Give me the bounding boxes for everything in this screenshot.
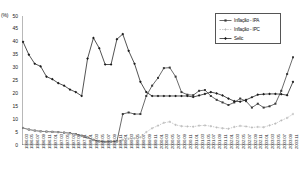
x-axis-tick: 2000.09 xyxy=(183,134,187,149)
series-point-infla-o-ipa xyxy=(198,90,200,92)
series-point-infla-o-ipa xyxy=(227,104,229,106)
series-point-infla-o-ipa xyxy=(180,91,182,93)
x-axis-tick: 2003.03 xyxy=(271,134,275,149)
x-axis-tick: 2000.07 xyxy=(177,134,181,149)
x-axis-tick: 1998.07 xyxy=(107,134,111,149)
x-axis-tick: 1996.09 xyxy=(42,134,46,149)
y-axis-tick: 35 xyxy=(2,52,18,57)
series-point-selic xyxy=(133,62,136,65)
x-axis-tick: 2002.07 xyxy=(248,134,252,149)
series-point-selic xyxy=(215,92,218,95)
series-point-infla-o-ipa xyxy=(204,89,206,91)
x-axis-tick: 1997.01 xyxy=(54,134,58,149)
y-axis-tick: 20 xyxy=(2,91,18,96)
series-line-selic xyxy=(23,34,293,102)
x-axis-tick: 2003.09 xyxy=(289,134,293,149)
series-point-selic xyxy=(198,94,201,97)
y-axis-tick: 45 xyxy=(2,26,18,31)
series-point-selic xyxy=(251,96,254,99)
x-axis-tick: 1999.03 xyxy=(130,134,134,149)
series-point-infla-o-ipa xyxy=(216,99,218,101)
series-point-infla-o-ipa xyxy=(280,90,282,92)
series-point-infla-o-ipa xyxy=(163,67,165,69)
x-axis-tick: 1996.11 xyxy=(48,135,52,150)
series-point-selic xyxy=(262,93,265,96)
chart-legend: Inflação - IPA Inflação - IPC Selic xyxy=(215,13,281,44)
series-point-infla-o-ipa xyxy=(139,113,141,115)
x-axis-tick: 1998.09 xyxy=(113,134,117,149)
series-point-infla-o-ipa xyxy=(151,85,153,87)
series-point-selic xyxy=(163,95,166,98)
x-axis-tick: 2003.05 xyxy=(277,134,281,149)
series-point-infla-o-ipa xyxy=(169,67,171,69)
series-point-infla-o-ipa xyxy=(263,107,265,109)
legend-item-ipc: Inflação - IPC xyxy=(219,25,278,34)
x-axis-tick: 2001.01 xyxy=(195,134,199,149)
series-point-selic xyxy=(209,91,212,94)
y-axis-tick-labels: 05101520253035404550 xyxy=(0,0,18,178)
series-point-selic xyxy=(292,80,294,83)
y-axis-tick: 0 xyxy=(2,143,18,148)
series-point-infla-o-ipa xyxy=(286,73,288,75)
series-point-selic xyxy=(127,49,130,52)
x-axis-tick: 2003.11 xyxy=(295,135,299,150)
x-axis-tick: 2001.03 xyxy=(201,134,205,149)
legend-swatch-ipc xyxy=(219,26,232,33)
series-point-infla-o-ipa xyxy=(128,111,130,113)
legend-item-selic: Selic xyxy=(219,34,278,43)
y-axis-tick: 10 xyxy=(2,117,18,122)
x-axis-tick: 2002.01 xyxy=(230,134,234,149)
x-axis-tick: 1999.05 xyxy=(136,134,140,149)
x-axis-tick: 1999.07 xyxy=(142,134,146,149)
y-axis-tick: 30 xyxy=(2,65,18,70)
x-axis-tick: 2002.05 xyxy=(242,134,246,149)
y-axis-tick: 50 xyxy=(2,14,18,19)
series-point-selic xyxy=(286,94,289,97)
x-axis-tick: 1998.01 xyxy=(89,134,93,149)
legend-label-ipa: Inflação - IPA xyxy=(234,18,259,23)
series-point-infla-o-ipa xyxy=(239,98,241,100)
y-axis-tick: 40 xyxy=(2,39,18,44)
series-point-infla-o-ipa xyxy=(157,77,159,79)
series-point-selic xyxy=(157,95,160,98)
series-point-infla-o-ipa xyxy=(257,103,259,105)
x-axis-tick: 1998.05 xyxy=(101,134,105,149)
x-axis-tick: 2000.11 xyxy=(189,135,193,150)
x-axis-tick: 1999.09 xyxy=(148,134,152,149)
series-point-selic xyxy=(239,100,242,103)
series-point-infla-o-ipa xyxy=(269,105,271,107)
series-point-infla-o-ipa xyxy=(210,95,212,97)
series-point-infla-o-ipa xyxy=(175,76,177,78)
x-axis-tick: 1998.03 xyxy=(95,134,99,149)
series-point-selic xyxy=(268,93,271,96)
series-point-selic xyxy=(274,93,277,96)
series-point-selic xyxy=(22,40,24,43)
legend-swatch-ipa xyxy=(219,17,232,24)
legend-label-selic: Selic xyxy=(234,36,243,41)
series-point-infla-o-ipa xyxy=(122,113,124,115)
legend-item-ipa: Inflação - IPA xyxy=(219,16,278,25)
series-point-infla-o-ipa xyxy=(222,101,224,103)
chart-container: (%) 05101520253035404550 1996.031996.051… xyxy=(0,0,301,178)
x-axis-tick: 1999.11 xyxy=(154,135,158,150)
legend-label-ipc: Inflação - IPC xyxy=(234,27,260,32)
series-point-selic xyxy=(227,97,230,100)
x-axis-tick-labels: 1996.031996.051996.071996.091996.111997.… xyxy=(22,147,300,178)
x-axis-tick: 1997.05 xyxy=(66,134,70,149)
series-point-selic xyxy=(221,94,224,97)
series-point-infla-o-ipa xyxy=(292,56,294,58)
x-axis-tick: 2003.01 xyxy=(265,134,269,149)
series-line-infla-o-ipa xyxy=(23,57,293,142)
y-axis-tick: 15 xyxy=(2,104,18,109)
series-point-selic xyxy=(168,95,171,98)
series-point-infla-o-ipa xyxy=(274,103,276,105)
series-point-infla-o-ipa xyxy=(134,113,136,115)
series-point-selic xyxy=(110,63,113,66)
series-point-selic xyxy=(86,57,89,60)
y-axis-tick: 5 xyxy=(2,130,18,135)
series-point-selic xyxy=(174,95,177,98)
x-axis-tick: 2002.03 xyxy=(236,134,240,149)
series-point-infla-o-ipa xyxy=(145,95,147,97)
x-axis-tick: 2003.07 xyxy=(283,134,287,149)
x-axis-tick: 2001.11 xyxy=(224,135,228,150)
